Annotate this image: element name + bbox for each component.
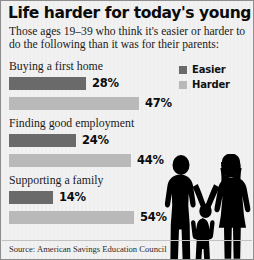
square-swatch-icon [179,81,187,89]
bar-value-harder: 47% [145,96,172,110]
footer-divider [2,240,252,241]
legend-label-easier: Easier [192,64,225,75]
bar-easier [9,191,53,204]
page-title: Life harder for today's young adults? [8,5,248,22]
family-silhouette-icon [157,154,253,259]
legend-label-harder: Harder [192,79,230,90]
square-swatch-icon [179,66,187,74]
legend-item-harder: Harder [179,78,245,91]
bar-easier [9,134,76,147]
bar-value-easier: 24% [82,133,109,147]
bar-value-harder: 44% [137,153,164,167]
bar-easier [9,77,86,90]
chart-legend: Easier Harder [179,63,245,93]
bar-value-easier: 28% [92,76,119,90]
source-credit: Source: American Savings Education Counc… [9,244,167,254]
legend-item-easier: Easier [179,63,245,76]
bar-harder [9,97,139,110]
bar-harder [9,211,134,224]
bar-harder [9,154,131,167]
bar-value-harder: 54% [140,210,167,224]
bar-value-easier: 14% [59,190,86,204]
chart-subtitle: Those ages 19–39 who think it's easier o… [9,26,247,51]
infographic-panel: Life harder for today's young adults? Th… [0,0,254,260]
group-label: Supporting a family [9,173,103,188]
group-label: Finding good employment [9,116,134,131]
group-label: Buying a first home [9,59,103,74]
